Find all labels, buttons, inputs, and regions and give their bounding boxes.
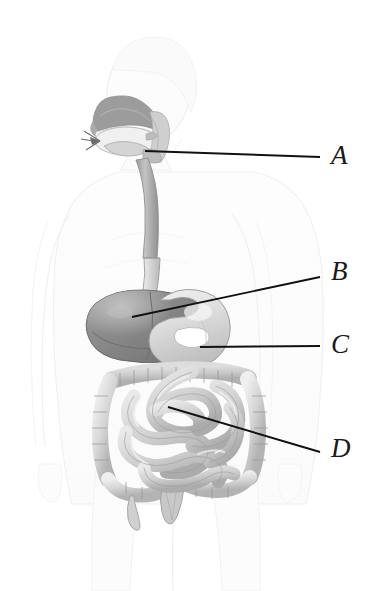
digestive-system-figure	[0, 0, 368, 591]
label-d: D	[331, 435, 351, 462]
anatomy-illustration	[0, 0, 368, 591]
label-c: C	[331, 331, 350, 358]
label-a: A	[331, 142, 348, 169]
label-b: B	[331, 258, 348, 285]
leader-line-c	[200, 346, 320, 347]
leader-line-a	[145, 151, 320, 157]
